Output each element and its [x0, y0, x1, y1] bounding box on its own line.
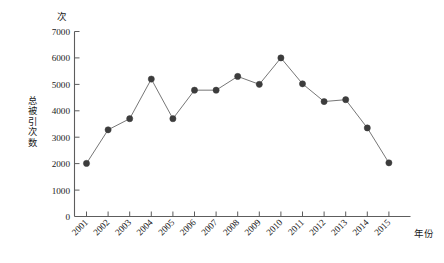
x-tick-label-2014: 2014 — [351, 217, 371, 237]
data-point-2002 — [105, 127, 111, 133]
data-point-2012 — [321, 98, 327, 104]
y-tick-label-4000: 4000 — [52, 106, 71, 116]
y-tick-label-0: 0 — [65, 212, 70, 222]
data-point-2005 — [170, 116, 176, 122]
line-chart-plot: 次 7000 6000 5000 4000 3000 2000 1000 0 — [0, 0, 444, 263]
x-tick-label-2008: 2008 — [221, 217, 241, 237]
x-axis-ticks — [87, 212, 389, 217]
data-point-2007 — [213, 87, 219, 93]
x-tick-label-2015: 2015 — [372, 217, 392, 237]
y-tick-label-5000: 5000 — [52, 80, 71, 90]
data-point-2015 — [386, 160, 392, 166]
y-tick-label-6000: 6000 — [52, 53, 71, 63]
y-tick-label-1000: 1000 — [52, 186, 71, 196]
x-tick-label-2009: 2009 — [243, 217, 263, 237]
x-tick-label-2001: 2001 — [70, 217, 90, 237]
y-tick-label-2000: 2000 — [52, 159, 71, 169]
x-tick-label-2007: 2007 — [199, 217, 219, 237]
data-point-2006 — [191, 87, 197, 93]
x-tick-label-2002: 2002 — [91, 217, 111, 237]
data-point-2004 — [148, 76, 154, 82]
data-point-2003 — [127, 116, 133, 122]
x-tick-label-2003: 2003 — [113, 217, 133, 237]
y-axis-ticks — [75, 32, 80, 191]
data-point-2014 — [364, 125, 370, 131]
x-tick-label-2005: 2005 — [156, 217, 176, 237]
x-tick-label-2006: 2006 — [178, 217, 198, 237]
data-point-2008 — [235, 73, 241, 79]
x-axis-tick-labels: 2001 2002 2003 2004 2005 2006 2007 2008 … — [70, 217, 393, 237]
data-point-2001 — [83, 160, 89, 166]
data-point-2010 — [278, 55, 284, 61]
x-tick-label-2004: 2004 — [135, 217, 155, 237]
data-point-2011 — [299, 81, 305, 87]
data-point-2013 — [343, 97, 349, 103]
data-point-2009 — [256, 81, 262, 87]
x-tick-label-2011: 2011 — [286, 217, 306, 237]
x-tick-label-2013: 2013 — [329, 217, 349, 237]
y-axis-unit-label: 次 — [57, 11, 67, 22]
x-tick-label-2012: 2012 — [307, 217, 327, 237]
y-tick-label-3000: 3000 — [52, 133, 71, 143]
x-axis-title: 年份 — [414, 228, 434, 239]
chart-figure: 总被引次数 次 7000 6000 5000 4000 3000 2000 10… — [0, 0, 444, 263]
series-markers-group — [83, 55, 392, 167]
y-tick-label-7000: 7000 — [52, 27, 71, 37]
x-tick-label-2010: 2010 — [264, 217, 284, 237]
